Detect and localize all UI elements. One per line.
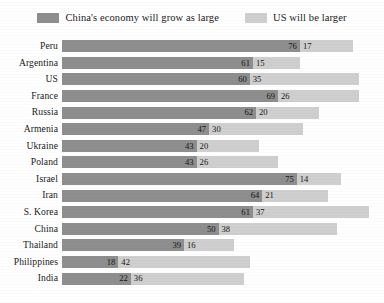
bar-segment-us: 42 bbox=[118, 256, 249, 268]
chart-row-bars: 1842 bbox=[62, 256, 250, 268]
chart-row-label-france: France bbox=[0, 88, 58, 105]
chart-row: Argentina6115 bbox=[0, 55, 384, 72]
chart-row-label-us: US bbox=[0, 71, 58, 88]
bar-segment-china: 43 bbox=[62, 140, 197, 152]
chart-row-label-ukraine: Ukraine bbox=[0, 138, 58, 155]
chart-row-label-thailand: Thailand bbox=[0, 237, 58, 254]
chart-plot-area: Peru7617Argentina6115US6035France6926Rus… bbox=[0, 38, 384, 303]
chart-row-bars: 7617 bbox=[62, 40, 353, 52]
chart-row-bars: 3916 bbox=[62, 239, 234, 251]
legend-entry-us: US will be larger bbox=[245, 13, 347, 24]
chart-row-label-iran: Iran bbox=[0, 187, 58, 204]
bar-value-china: 39 bbox=[172, 241, 184, 250]
bar-value-china: 61 bbox=[241, 59, 253, 68]
bar-segment-china: 50 bbox=[62, 223, 219, 235]
bar-value-us: 15 bbox=[256, 59, 265, 68]
chart-row: Russia6220 bbox=[0, 104, 384, 121]
chart-row-bars: 4326 bbox=[62, 156, 278, 168]
bar-value-us: 36 bbox=[134, 274, 143, 283]
chart-row-label-china: China bbox=[0, 221, 58, 238]
bar-segment-us: 38 bbox=[219, 223, 338, 235]
bar-segment-us: 21 bbox=[262, 190, 328, 202]
chart-row-bars: 4320 bbox=[62, 140, 259, 152]
chart-row-label-russia: Russia bbox=[0, 104, 58, 121]
bar-segment-china: 61 bbox=[62, 206, 253, 218]
chart-row: India2236 bbox=[0, 270, 384, 287]
bar-segment-us: 37 bbox=[253, 206, 369, 218]
bar-value-china: 60 bbox=[238, 75, 250, 84]
chart-row-bars: 6035 bbox=[62, 73, 359, 85]
bar-value-us: 14 bbox=[300, 175, 309, 184]
bar-value-china: 18 bbox=[107, 258, 119, 267]
bar-segment-us: 17 bbox=[300, 40, 353, 52]
legend-label-china: China's economy will grow as large bbox=[65, 13, 219, 24]
chart-row: China5038 bbox=[0, 221, 384, 238]
bar-segment-china: 43 bbox=[62, 156, 197, 168]
chart-row-label-peru: Peru bbox=[0, 38, 58, 55]
bar-segment-china: 60 bbox=[62, 73, 250, 85]
bar-segment-us: 30 bbox=[209, 123, 303, 135]
bar-segment-china: 22 bbox=[62, 273, 131, 285]
bar-value-china: 76 bbox=[288, 42, 300, 51]
bar-value-china: 43 bbox=[185, 142, 197, 151]
bar-value-china: 64 bbox=[251, 191, 263, 200]
bar-segment-china: 64 bbox=[62, 190, 262, 202]
chart-row-bars: 4730 bbox=[62, 123, 303, 135]
bar-segment-china: 69 bbox=[62, 90, 278, 102]
chart-row: Thailand3916 bbox=[0, 237, 384, 254]
chart-row-label-s-korea: S. Korea bbox=[0, 204, 58, 221]
bar-value-us: 35 bbox=[253, 75, 262, 84]
chart-row: Iran6421 bbox=[0, 187, 384, 204]
bar-segment-us: 35 bbox=[250, 73, 360, 85]
chart-row-bars: 7514 bbox=[62, 173, 341, 185]
bar-segment-china: 75 bbox=[62, 173, 297, 185]
bar-value-china: 61 bbox=[241, 208, 253, 217]
bar-segment-china: 76 bbox=[62, 40, 300, 52]
chart-row-label-india: India bbox=[0, 270, 58, 287]
chart-row: Armenia4730 bbox=[0, 121, 384, 138]
chart-row: Poland4326 bbox=[0, 154, 384, 171]
chart-row-label-philippines: Philippines bbox=[0, 254, 58, 271]
bar-segment-us: 20 bbox=[197, 140, 260, 152]
bar-value-us: 42 bbox=[121, 258, 130, 267]
bar-value-us: 20 bbox=[259, 108, 268, 117]
bar-value-china: 75 bbox=[285, 175, 297, 184]
chart-row: Israel7514 bbox=[0, 171, 384, 188]
legend-entry-china: China's economy will grow as large bbox=[37, 13, 219, 24]
chart-row-bars: 6115 bbox=[62, 57, 300, 69]
bar-segment-china: 61 bbox=[62, 57, 253, 69]
bar-value-china: 62 bbox=[244, 108, 256, 117]
stacked-bar-chart: China's economy will grow as large US wi… bbox=[0, 0, 384, 303]
chart-row-bars: 6926 bbox=[62, 90, 359, 102]
bar-segment-us: 36 bbox=[131, 273, 244, 285]
bar-segment-us: 14 bbox=[297, 173, 341, 185]
chart-row-label-israel: Israel bbox=[0, 171, 58, 188]
chart-row-bars: 6137 bbox=[62, 206, 369, 218]
bar-value-us: 21 bbox=[265, 191, 274, 200]
bar-segment-china: 39 bbox=[62, 239, 184, 251]
legend-label-us: US will be larger bbox=[273, 13, 347, 24]
chart-row-bars: 6421 bbox=[62, 190, 328, 202]
bar-value-china: 47 bbox=[198, 125, 210, 134]
chart-row-label-poland: Poland bbox=[0, 154, 58, 171]
chart-row: Ukraine4320 bbox=[0, 138, 384, 155]
bar-segment-us: 26 bbox=[197, 156, 278, 168]
bar-segment-china: 47 bbox=[62, 123, 209, 135]
chart-row: France6926 bbox=[0, 88, 384, 105]
bar-segment-china: 18 bbox=[62, 256, 118, 268]
bar-value-us: 37 bbox=[256, 208, 265, 217]
bar-value-us: 26 bbox=[200, 158, 209, 167]
chart-row-bars: 5038 bbox=[62, 223, 337, 235]
bar-segment-us: 26 bbox=[278, 90, 359, 102]
legend-swatch-us-icon bbox=[245, 13, 267, 23]
chart-row: US6035 bbox=[0, 71, 384, 88]
chart-row: S. Korea6137 bbox=[0, 204, 384, 221]
bar-value-us: 26 bbox=[281, 92, 290, 101]
bar-value-us: 17 bbox=[303, 42, 312, 51]
legend-swatch-china-icon bbox=[37, 13, 59, 23]
chart-row: Peru7617 bbox=[0, 38, 384, 55]
bar-value-china: 50 bbox=[207, 225, 219, 234]
bar-value-china: 69 bbox=[266, 92, 278, 101]
chart-row-bars: 2236 bbox=[62, 273, 244, 285]
bar-value-us: 16 bbox=[187, 241, 196, 250]
